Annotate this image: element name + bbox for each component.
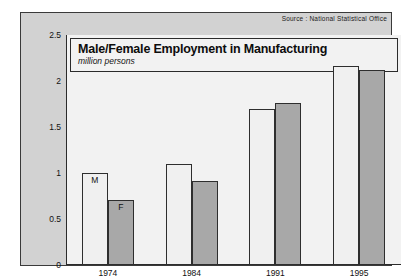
title-box: Male/Female Employment in Manufacturing … bbox=[70, 38, 398, 72]
x-axis-tick-label: 1984 bbox=[182, 268, 201, 278]
y-axis-tick-label: 0.5 bbox=[23, 214, 61, 224]
chart-panel: Source : National Statistical Office 00.… bbox=[20, 12, 392, 266]
chart-title: Male/Female Employment in Manufacturing bbox=[78, 43, 391, 56]
source-note: Source : National Statistical Office bbox=[282, 15, 387, 22]
x-axis-tick-label: 1995 bbox=[350, 268, 369, 278]
plot-area: Male/Female Employment in Manufacturing … bbox=[66, 35, 401, 265]
y-axis-tick-label: 1.5 bbox=[23, 122, 61, 132]
y-axis-tick-label: 2.5 bbox=[23, 30, 61, 40]
y-axis-tick-label: 1 bbox=[23, 168, 61, 178]
chart-screenshot: Source : National Statistical Office 00.… bbox=[0, 0, 410, 280]
y-axis: 00.511.522.5 bbox=[21, 13, 61, 265]
x-axis-tick-label: 1974 bbox=[98, 268, 117, 278]
chart-subtitle: million persons bbox=[78, 57, 391, 66]
x-axis-tick-label: 1991 bbox=[266, 268, 285, 278]
y-axis-tick-label: 0 bbox=[23, 260, 61, 270]
y-axis-tick-label: 2 bbox=[23, 76, 61, 86]
